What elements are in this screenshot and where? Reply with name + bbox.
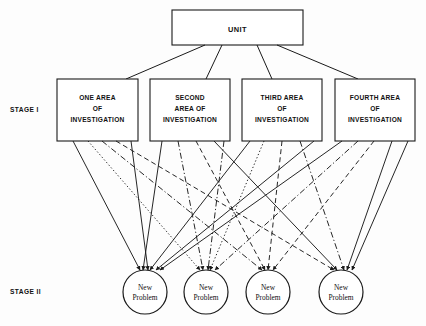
stage2-node-1[interactable]: New Problem xyxy=(123,270,167,314)
edge-area-1-problem-2 xyxy=(88,141,200,270)
edge-area-2-problem-2 xyxy=(178,141,203,270)
stage2-node-2[interactable]: New Problem xyxy=(184,270,228,314)
area-3-line-2: OF xyxy=(277,105,287,112)
diagram-canvas: UNIT ONE AREA OF INVESTIGATION SECOND AR… xyxy=(0,0,426,326)
stage1-box-1[interactable]: ONE AREA OF INVESTIGATION xyxy=(57,79,138,141)
area-4-line-2: OF xyxy=(370,105,380,112)
area-1-line-1: ONE AREA xyxy=(79,94,116,101)
problem-1-line-2: Problem xyxy=(132,293,157,302)
stage1-box-2[interactable]: SECOND AREA OF INVESTIGATION xyxy=(150,79,230,141)
edge-area-2-problem-3 xyxy=(196,141,265,270)
edge-unit-area-3 xyxy=(257,45,272,79)
edge-area-1-problem-1 xyxy=(73,141,140,270)
stage1-box-4[interactable]: FOURTH AREA OF INVESTIGATION xyxy=(335,79,415,141)
stage2-node-4[interactable]: New Problem xyxy=(319,270,363,314)
area-3-line-3: INVESTIGATION xyxy=(255,116,309,123)
stage1-to-stage2-edges xyxy=(73,141,408,270)
edge-area-3-problem-2 xyxy=(210,141,264,270)
problem-4-line-1: New xyxy=(334,283,349,292)
area-2-line-2: AREA OF xyxy=(174,105,205,112)
edge-unit-area-2 xyxy=(206,45,222,79)
area-1-line-2: OF xyxy=(93,105,103,112)
diagram-container: UNIT ONE AREA OF INVESTIGATION SECOND AR… xyxy=(0,0,426,326)
problem-2-line-2: Problem xyxy=(193,293,218,302)
edge-area-4-problem-4-alt xyxy=(352,141,408,270)
problem-3-line-2: Problem xyxy=(255,293,280,302)
edge-area-4-problem-4 xyxy=(347,141,392,270)
stage-2-label: STAGE II xyxy=(10,288,41,295)
edge-area-2-problem-1 xyxy=(143,141,162,270)
unit-to-stage1-edges xyxy=(126,45,358,79)
stage-1-label: STAGE I xyxy=(10,106,39,113)
area-4-line-1: FOURTH AREA xyxy=(350,94,401,101)
area-3-line-1: THIRD AREA xyxy=(261,94,304,101)
problem-4-line-2: Problem xyxy=(328,293,353,302)
area-4-line-3: INVESTIGATION xyxy=(348,116,402,123)
problem-1-line-1: New xyxy=(138,283,153,292)
edge-area-1-problem-3 xyxy=(102,141,262,270)
stage2-node-3[interactable]: New Problem xyxy=(246,270,290,314)
area-1-line-3: INVESTIGATION xyxy=(70,116,124,123)
unit-label: UNIT xyxy=(228,25,247,34)
edge-area-4-problem-1 xyxy=(160,141,342,270)
edge-unit-area-1 xyxy=(126,45,205,79)
area-2-line-1: SECOND xyxy=(175,94,205,101)
edge-area-4-problem-3 xyxy=(273,141,374,270)
edge-unit-area-4 xyxy=(277,45,358,79)
edge-area-2-problem-4 xyxy=(214,141,337,270)
problem-2-line-1: New xyxy=(199,283,214,292)
problem-3-line-1: New xyxy=(261,283,276,292)
stage1-box-3[interactable]: THIRD AREA OF INVESTIGATION xyxy=(242,79,322,141)
edge-area-1-problem-4 xyxy=(116,141,334,270)
edge-area-4-problem-2 xyxy=(215,141,358,270)
area-2-line-3: INVESTIGATION xyxy=(163,116,217,123)
edge-area-3-problem-4 xyxy=(300,141,344,270)
edge-area-2-problem-2-alt xyxy=(208,141,224,270)
unit-node[interactable]: UNIT xyxy=(172,10,303,45)
